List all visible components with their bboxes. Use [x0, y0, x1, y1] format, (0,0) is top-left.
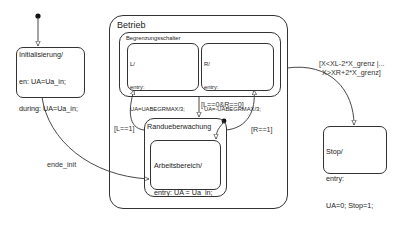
state-r-text: R/ entry: UA=-UABEGRMAX/3; [204, 46, 261, 129]
label-to-stop-line1: [X<XL-2*X_grenz |... [319, 59, 385, 68]
action-line: UA=UABEGRMAX/3; [130, 106, 185, 114]
action-line: entry: UA = Ua_in; [154, 188, 217, 197]
state-initialisierung-name: Initialisierung/ [19, 50, 63, 59]
state-stop-name: Stop/ [326, 147, 373, 156]
label-to-left: [L==1] [114, 124, 134, 133]
action-line: during: UA=Ua_in; [19, 104, 78, 113]
label-to-stop-line2: X>XR+2*X_grenz] [322, 68, 381, 77]
label-to-rand: [L==0&R==0] [201, 100, 244, 109]
action-line: entry: [130, 84, 185, 92]
state-stop-text: Stop/ entry: UA=0; Stop=1; [326, 129, 373, 215]
state-betrieb-name: Betrieb [117, 20, 146, 30]
action-line: UA=0; Stop=1; [326, 201, 373, 210]
state-l-text: L/ entry: UA=UABEGRMAX/3; [130, 46, 185, 129]
state-l-name: L/ [130, 61, 185, 69]
label-to-right: [R==1] [251, 125, 273, 134]
state-arbeitsbereich[interactable]: Arbeitsbereich/ entry: UA = Ua_in; durin… [150, 140, 221, 190]
state-initialisierung-actions: en: UA=Ua_in; during: UA=Ua_in; [19, 59, 78, 131]
state-stop[interactable]: Stop/ entry: UA=0; Stop=1; [323, 126, 387, 174]
label-ende-init: ende_init [47, 160, 76, 169]
state-r-name: R/ [204, 61, 261, 69]
action-line: entry: [204, 84, 261, 92]
state-begrenzungsschalter-name: Begrenzungsschalter [126, 35, 180, 41]
state-arbeitsbereich-name: Arbeitsbereich/ [154, 161, 217, 170]
state-arbeitsbereich-text: Arbeitsbereich/ entry: UA = Ua_in; durin… [154, 143, 217, 215]
action-line: entry: [326, 174, 373, 183]
state-initialisierung[interactable]: Initialisierung/ en: UA=Ua_in; during: U… [16, 47, 85, 98]
action-line: en: UA=Ua_in; [19, 77, 78, 86]
state-r[interactable]: R/ entry: UA=-UABEGRMAX/3; [201, 43, 274, 91]
state-l[interactable]: L/ entry: UA=UABEGRMAX/3; [127, 43, 199, 91]
state-randueberwachung-name: Randueberwachung [147, 122, 211, 131]
